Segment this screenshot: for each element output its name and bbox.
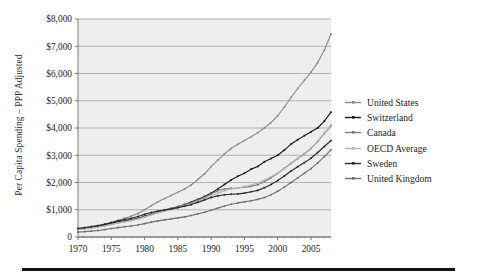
- legend-line-marker-icon: [344, 158, 362, 169]
- chart-legend: United StatesSwitzerlandCanadaOECD Avera…: [344, 95, 478, 186]
- legend-item-label: Canada: [367, 127, 396, 138]
- x-axis-tick-label: 2005: [302, 244, 321, 254]
- y-axis-tick-label: 0: [67, 232, 72, 242]
- legend-line-marker-icon: [344, 112, 362, 123]
- legend-item-label: OECD Average: [367, 143, 427, 154]
- chart-figure: Per Capita Spending – PPP Adjusted 0$1,0…: [0, 0, 480, 278]
- bottom-divider-rule: [22, 268, 455, 271]
- y-axis-tick-label: $4,000: [46, 123, 72, 133]
- x-axis-tick-label: 1980: [135, 244, 154, 254]
- y-axis-tick-label: $1,000: [46, 205, 72, 215]
- legend-line-marker-icon: [344, 173, 362, 184]
- y-axis-tick-label: $6,000: [46, 69, 72, 79]
- x-axis-tick-label: 1995: [235, 244, 254, 254]
- legend-item-label: United Kingdom: [367, 173, 432, 184]
- y-axis-tick-label: $5,000: [46, 96, 72, 106]
- legend-item[interactable]: United States: [344, 95, 478, 110]
- legend-line-marker-icon: [344, 127, 362, 138]
- legend-item[interactable]: OECD Average: [344, 141, 478, 156]
- y-axis-tick-label: $8,000: [46, 14, 72, 24]
- x-axis-tick-label: 1975: [102, 244, 121, 254]
- legend-item-label: Sweden: [367, 158, 397, 169]
- legend-line-marker-icon: [344, 97, 362, 108]
- y-axis-tick-label: $3,000: [46, 151, 72, 161]
- x-axis-tick-label: 1990: [202, 244, 221, 254]
- legend-item[interactable]: Canada: [344, 125, 478, 140]
- legend-item-label: United States: [367, 97, 418, 108]
- legend-line-marker-icon: [344, 143, 362, 154]
- y-axis-tick-label: $7,000: [46, 42, 72, 52]
- legend-item[interactable]: United Kingdom: [344, 171, 478, 186]
- x-axis-tick-label: 1985: [168, 244, 187, 254]
- legend-item[interactable]: Sweden: [344, 156, 478, 171]
- x-axis-tick-label: 1970: [69, 244, 88, 254]
- x-axis-tick-label: 2000: [268, 244, 287, 254]
- legend-item[interactable]: Switzerland: [344, 110, 478, 125]
- legend-item-label: Switzerland: [367, 112, 413, 123]
- y-axis-tick-label: $2,000: [46, 178, 72, 188]
